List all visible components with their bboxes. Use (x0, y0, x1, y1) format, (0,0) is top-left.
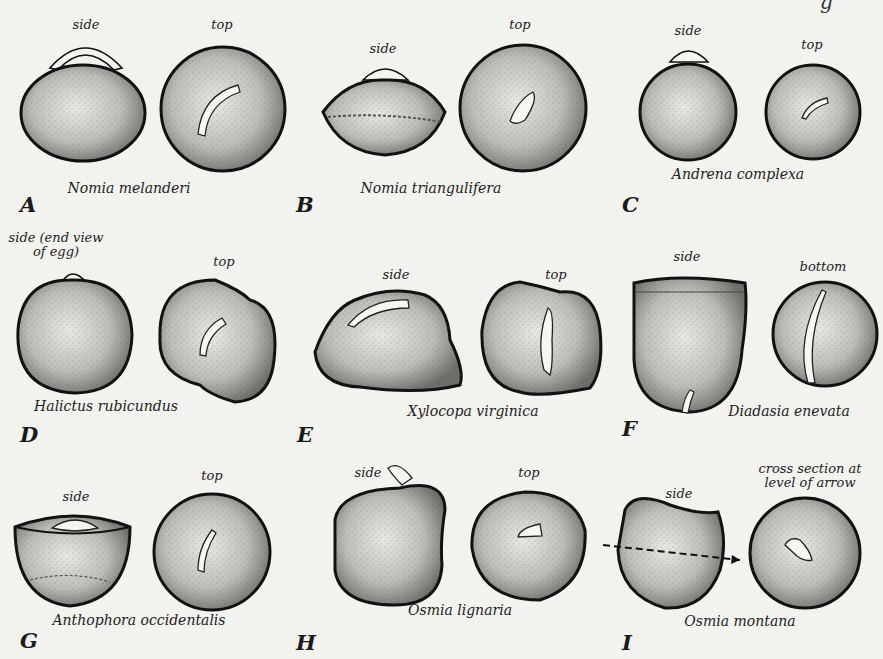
stippled-illustrations (0, 0, 883, 659)
panel-f-bottom-label: bottom (800, 260, 847, 274)
panel-h-side-drawing (335, 466, 445, 605)
panel-h-letter: H (296, 630, 316, 655)
panel-a-letter: A (20, 192, 36, 217)
panel-h-species: Osmia lignaria (408, 602, 512, 618)
panel-f-species: Diadasia enevata (728, 403, 850, 419)
panel-g-letter: G (20, 628, 38, 653)
panel-f-side-drawing (634, 278, 746, 413)
panel-h-top-drawing (472, 492, 585, 600)
panel-c-species: Andrena complexa (672, 166, 804, 182)
panel-d-top-label: top (213, 255, 234, 269)
panel-i-cross-section-label: cross section at level of arrow (758, 462, 861, 489)
panel-i-side-drawing (603, 499, 740, 609)
panel-i-side-label: side (666, 487, 693, 501)
panel-g-top-drawing (154, 494, 270, 610)
panel-g-top-label: top (201, 469, 222, 483)
page-header-fragment: g (820, 0, 833, 14)
panel-b-top-drawing (460, 45, 586, 171)
panel-h-top-label: top (518, 466, 539, 480)
panel-b-species: Nomia triangulifera (361, 180, 502, 196)
panel-d-species: Halictus rubicundus (34, 398, 178, 414)
panel-g-side-drawing (15, 516, 130, 606)
panel-i-cross-label-line2: level of arrow (764, 475, 855, 490)
panel-a-side-drawing (21, 48, 145, 161)
panel-a-top-label: top (211, 18, 232, 32)
panel-c-side-drawing (640, 51, 736, 160)
panel-b-top-label: top (509, 18, 530, 32)
panel-e-species: Xylocopa virginica (407, 403, 538, 419)
panel-d-side-label-line2: of egg) (33, 244, 79, 259)
panel-i-species: Osmia montana (684, 613, 795, 629)
panel-d-side-label: side (end view of egg) (9, 231, 104, 258)
pollen-mass-figure: g side top side top side top Nomia melan… (0, 0, 883, 659)
arrow-head-icon (731, 555, 740, 564)
panel-b-side-label: side (370, 42, 397, 56)
panel-b-letter: B (296, 192, 314, 217)
panel-e-top-drawing (482, 282, 601, 394)
panel-a-species: Nomia melanderi (67, 180, 190, 196)
panel-c-top-drawing (766, 65, 860, 159)
panel-h-side-label: side (355, 466, 382, 480)
panel-e-letter: E (297, 422, 313, 447)
panel-d-letter: D (20, 422, 38, 447)
panel-d-side-drawing (18, 274, 132, 393)
panel-c-top-label: top (801, 38, 822, 52)
panel-g-side-label: side (63, 490, 90, 504)
panel-f-side-label: side (674, 250, 701, 264)
panel-d-top-drawing (160, 280, 275, 402)
panel-e-side-drawing (315, 291, 461, 391)
panel-f-bottom-drawing (773, 282, 877, 386)
panel-i-cross-section-drawing (750, 498, 860, 608)
panel-c-side-label: side (675, 24, 702, 38)
panel-c-letter: C (622, 192, 639, 217)
panel-f-letter: F (622, 416, 637, 441)
panel-i-letter: I (622, 630, 632, 655)
panel-e-top-label: top (545, 268, 566, 282)
panel-a-top-drawing (161, 47, 285, 171)
panel-b-side-drawing (323, 69, 445, 155)
panel-g-species: Anthophora occidentalis (52, 612, 225, 628)
panel-e-side-label: side (383, 268, 410, 282)
panel-a-side-label: side (73, 18, 100, 32)
